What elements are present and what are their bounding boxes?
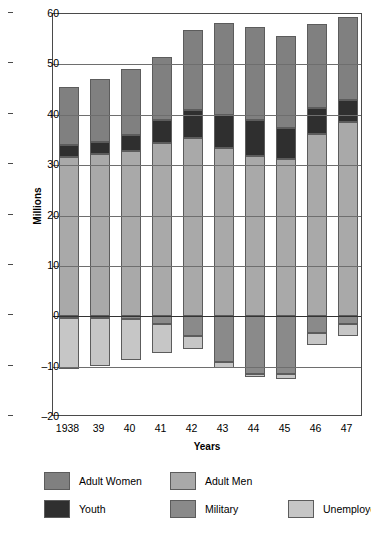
bar-segment[interactable] — [338, 122, 358, 316]
y-tick-label: 10 — [13, 260, 59, 270]
bar-segment[interactable] — [338, 316, 358, 324]
bar-segment[interactable] — [245, 374, 265, 378]
legend-swatch — [44, 472, 70, 490]
bar-segment[interactable] — [245, 27, 265, 121]
bar-segment[interactable] — [214, 148, 234, 316]
y-tick-label: 30 — [13, 159, 59, 169]
gridline — [53, 64, 361, 65]
bar-segment[interactable] — [245, 120, 265, 155]
legend-item[interactable]: Unemployed — [288, 500, 371, 518]
bar-segment[interactable] — [183, 336, 203, 350]
bar-segment[interactable] — [152, 120, 172, 144]
bar-segment[interactable] — [214, 316, 234, 362]
x-tick-label: 42 — [176, 422, 207, 434]
x-tick-label: 1938 — [52, 422, 83, 434]
legend-swatch — [170, 472, 196, 490]
bar-column[interactable] — [214, 14, 234, 415]
bar-segment[interactable] — [307, 134, 327, 316]
legend-swatch — [288, 500, 314, 518]
bar-column[interactable] — [183, 14, 203, 415]
bar-segment[interactable] — [276, 316, 296, 373]
bar-segment[interactable] — [121, 135, 141, 150]
y-tick-label: 0 — [13, 310, 59, 320]
y-tick-mark — [8, 12, 13, 13]
bar-segment[interactable] — [183, 316, 203, 336]
bar-segment[interactable] — [307, 24, 327, 108]
y-tick-label: 50 — [13, 58, 59, 68]
bar-segment[interactable] — [121, 69, 141, 135]
bar-column[interactable] — [90, 14, 110, 415]
bar-segment[interactable] — [121, 319, 141, 360]
bar-segment[interactable] — [152, 143, 172, 316]
bar-column[interactable] — [276, 14, 296, 415]
gridline — [53, 367, 361, 368]
legend-item[interactable]: Adult Men — [170, 472, 252, 490]
y-tick-label: 20 — [13, 210, 59, 220]
bar-segment[interactable] — [307, 316, 327, 333]
gridline — [53, 266, 361, 267]
bar-column[interactable] — [245, 14, 265, 415]
bar-segment[interactable] — [276, 128, 296, 158]
bar-segment[interactable] — [59, 145, 79, 157]
x-tick-label: 47 — [331, 422, 362, 434]
chart-root: Millions 6050403020100–10–20 19383940414… — [0, 0, 371, 533]
bar-segment[interactable] — [90, 154, 110, 316]
y-tick-mark — [8, 163, 13, 164]
bar-segment[interactable] — [59, 318, 79, 369]
bar-column[interactable] — [338, 14, 358, 415]
bar-segment[interactable] — [214, 115, 234, 148]
y-tick-mark — [8, 415, 13, 416]
bar-segment[interactable] — [121, 151, 141, 317]
bar-segment[interactable] — [152, 57, 172, 119]
bar-segment[interactable] — [152, 316, 172, 324]
bar-segment[interactable] — [338, 324, 358, 336]
y-tick-mark — [8, 314, 13, 315]
bar-column[interactable] — [59, 14, 79, 415]
bar-segment[interactable] — [338, 100, 358, 122]
bar-series-container — [53, 14, 361, 415]
gridline — [53, 216, 361, 217]
y-tick-label: 40 — [13, 109, 59, 119]
bar-column[interactable] — [121, 14, 141, 415]
legend-swatch — [170, 500, 196, 518]
legend-label: Adult Women — [79, 475, 142, 487]
bar-segment[interactable] — [307, 108, 327, 134]
legend-label: Military — [205, 503, 238, 515]
x-axis-title: Years — [52, 441, 362, 452]
x-tick-label: 41 — [145, 422, 176, 434]
x-tick-label: 46 — [300, 422, 331, 434]
y-tick-label: –20 — [13, 411, 59, 421]
legend-item[interactable]: Youth — [44, 500, 105, 518]
bar-segment[interactable] — [152, 324, 172, 352]
bar-segment[interactable] — [276, 159, 296, 317]
y-tick-mark — [8, 264, 13, 265]
bar-column[interactable] — [152, 14, 172, 415]
x-tick-label: 45 — [269, 422, 300, 434]
legend-label: Youth — [79, 503, 105, 515]
x-tick-label: 44 — [238, 422, 269, 434]
x-tick-label: 40 — [114, 422, 145, 434]
legend-label: Adult Men — [205, 475, 252, 487]
bar-segment[interactable] — [90, 79, 110, 142]
zero-line — [53, 316, 361, 317]
chart-legend: Adult WomenAdult MenYouthMilitaryUnemplo… — [44, 472, 364, 528]
bar-segment[interactable] — [338, 17, 358, 101]
bar-segment[interactable] — [214, 23, 234, 115]
legend-item[interactable]: Military — [170, 500, 238, 518]
bar-segment[interactable] — [183, 30, 203, 110]
bar-segment[interactable] — [307, 333, 327, 345]
y-axis-title: Millions — [32, 166, 43, 246]
bar-segment[interactable] — [245, 156, 265, 317]
bar-segment[interactable] — [90, 318, 110, 366]
gridline — [53, 165, 361, 166]
bar-segment[interactable] — [90, 142, 110, 154]
bar-segment[interactable] — [245, 316, 265, 373]
legend-item[interactable]: Adult Women — [44, 472, 142, 490]
bar-segment[interactable] — [276, 374, 296, 379]
bar-segment[interactable] — [183, 110, 203, 138]
y-tick-label: 60 — [13, 8, 59, 18]
y-tick-label: –10 — [13, 361, 59, 371]
y-tick-mark — [8, 113, 13, 114]
bar-segment[interactable] — [59, 157, 79, 316]
bar-column[interactable] — [307, 14, 327, 415]
